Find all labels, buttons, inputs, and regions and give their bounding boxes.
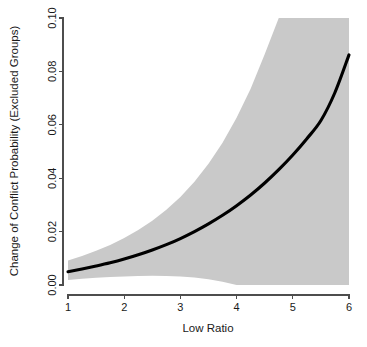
y-axis-tick-label: 0.06: [46, 114, 58, 135]
y-axis-line: [59, 18, 63, 285]
x-axis-tick-label: 4: [234, 301, 240, 313]
conflict-probability-line-chart: 0.000.020.040.060.080.10 123456 Low Rati…: [0, 0, 367, 347]
x-axis-tick-label: 2: [121, 301, 127, 313]
y-axis: 0.000.020.040.060.080.10: [46, 7, 63, 295]
y-axis-tick-label: 0.04: [46, 167, 58, 188]
x-axis-tick-label: 6: [346, 301, 352, 313]
y-axis-tick-label: 0.08: [46, 61, 58, 82]
x-axis-title: Low Ratio: [182, 322, 233, 334]
x-axis-tick-label: 1: [65, 301, 71, 313]
confidence-band-area: [68, 18, 349, 285]
x-axis-line: [68, 295, 349, 299]
y-axis-tick-label: 0.10: [46, 7, 58, 28]
x-axis: 123456: [65, 295, 352, 313]
x-axis-tick-label: 5: [290, 301, 296, 313]
y-axis-title: Change of Conflict Probability (Excluded…: [8, 26, 20, 277]
chart-figure: 0.000.020.040.060.080.10 123456 Low Rati…: [0, 0, 367, 347]
y-axis-tick-label: 0.02: [46, 221, 58, 242]
x-axis-tick-label: 3: [177, 301, 183, 313]
y-axis-tick-label: 0.00: [46, 274, 58, 295]
